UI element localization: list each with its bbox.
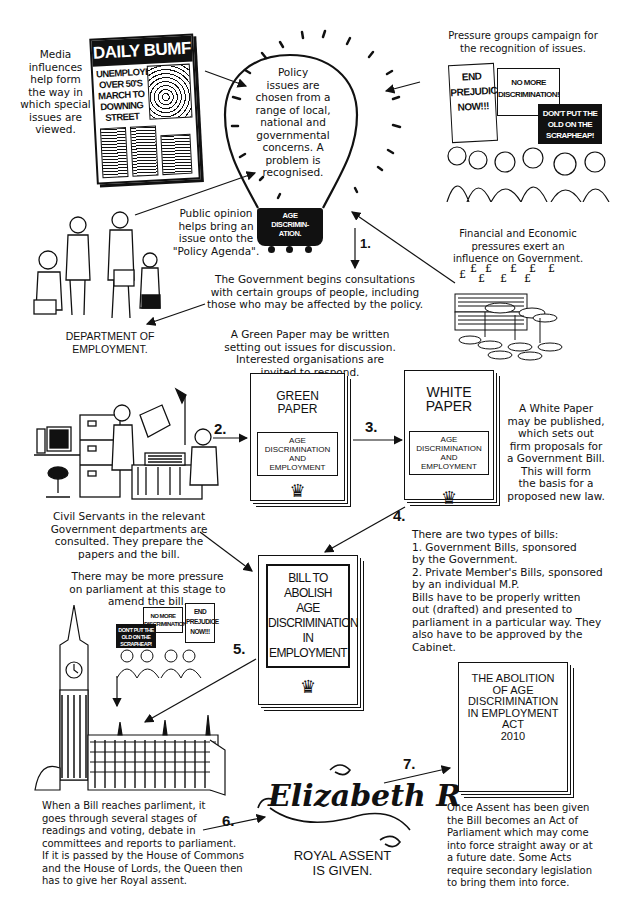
- protest-sign-end-prejudice: END PREJUDICE NOW!!!: [185, 603, 215, 643]
- newspaper-column: [160, 134, 192, 176]
- step-2-label: 2.: [214, 420, 227, 437]
- act-document: THE ABOLITION OF AGE DISCRIMINATION IN E…: [458, 662, 568, 792]
- pound-sign-icon: £: [470, 262, 477, 275]
- white-paper-subject: AGE DISCRIMINATION AND EMPLOYMENT: [409, 431, 489, 475]
- pound-sign-icon: £: [510, 262, 517, 275]
- parliament-caption: When a Bill reaches parliment, it goes t…: [42, 800, 252, 888]
- protest-sign-end-prejudice: END PREJUDICE NOW!!!: [448, 63, 498, 143]
- department-of-employment-label: DEPARTMENT OF EMPLOYMENT.: [55, 330, 165, 355]
- step-3-label: 3.: [365, 418, 378, 435]
- parliament-pressure-caption: There may be more pressure on parliament…: [60, 570, 235, 608]
- newspaper-daily-bumf: DAILY BUMF UNEMPLOYED OVER 50'S MARCH TO…: [89, 33, 200, 184]
- step-6-label: 6.: [222, 812, 235, 829]
- financial-caption: Financial and Economic pressures exert a…: [448, 228, 588, 266]
- pound-sign-icon: £: [478, 272, 485, 285]
- green-paper-caption: A Green Paper may be written setting out…: [205, 328, 415, 378]
- bill-document: BILL TO ABOLISH AGE DISCRIMINATION IN EM…: [258, 555, 358, 705]
- crown-icon: ♛: [251, 480, 344, 501]
- newspaper-column: [130, 125, 159, 176]
- act-caption: Once Assent has been given the Bill beco…: [447, 802, 627, 890]
- pound-sign-icon: £: [459, 268, 466, 281]
- bulb-text: Policy issues are chosen from a range of…: [238, 66, 348, 179]
- crowd-photo-icon: [147, 64, 193, 120]
- step-5-label: 5.: [233, 640, 246, 657]
- protesters-crowd-icon: [445, 142, 610, 202]
- consultation-caption: The Government begins consultations with…: [195, 273, 435, 311]
- step-7-label: 7.: [403, 755, 416, 772]
- step-4-label: 4.: [393, 507, 406, 524]
- protest-sign-scrapheap: DON'T PUT THE OLD ON THE SCRAPHEAP!: [116, 624, 156, 648]
- bill-title: BILL TO ABOLISH AGE DISCRIMINATION IN EM…: [266, 564, 350, 668]
- white-paper-title: WHITE PAPER: [405, 385, 493, 413]
- green-paper-subject: AGE DISCRIMINATION AND EMPLOYMENT: [257, 432, 338, 476]
- money-pile-icon: [455, 294, 562, 360]
- bill-types-caption: There are two types of bills: 1. Governm…: [412, 528, 630, 653]
- royal-assent-caption: ROYAL ASSENT IS GIVEN.: [290, 848, 395, 878]
- civil-servants-office-illustration: [20, 385, 220, 510]
- public-opinion-caption: Public opinion helps bring an issue onto…: [168, 207, 264, 257]
- white-paper-document: WHITE PAPER AGE DISCRIMINATION AND EMPLO…: [404, 370, 494, 500]
- media-caption: Media influences help form the way in wh…: [18, 48, 93, 136]
- green-paper-document: GREEN PAPER AGE DISCRIMINATION AND EMPLO…: [250, 373, 345, 501]
- royal-signature: Elizabeth R: [268, 778, 461, 813]
- pound-sign-icon: £: [548, 262, 555, 275]
- newspaper-column: [100, 127, 129, 178]
- bulb-base-age-discrimination: AGE DISCRIMIN- ATION.: [257, 208, 323, 246]
- act-title: THE ABOLITION OF AGE DISCRIMINATION IN E…: [459, 673, 567, 742]
- crown-icon: ♛: [405, 487, 493, 508]
- newspaper-headline: UNEMPLOYED OVER 50'S MARCH TO DOWNING ST…: [96, 66, 147, 123]
- bulb-contacts: [262, 246, 318, 252]
- pound-sign-icon: £: [485, 262, 492, 275]
- protest-sign-scrapheap: DON'T PUT THE OLD ON THE SCRAPHEAP!: [538, 104, 602, 144]
- pound-sign-icon: £: [529, 262, 536, 275]
- protesters-small-icon: [115, 648, 205, 678]
- green-paper-title: GREEN PAPER: [251, 390, 344, 416]
- civil-servants-caption: Civil Servants in the relevant Governmen…: [44, 510, 214, 560]
- pound-sign-icon: £: [500, 272, 507, 285]
- white-paper-caption: A White Paper may be published, which se…: [500, 402, 612, 502]
- crown-icon: ♛: [266, 676, 350, 697]
- step-1-label: 1.: [360, 236, 371, 251]
- pressure-groups-caption: Pressure groups campaign for the recogni…: [438, 30, 608, 55]
- public-group-illustration: [30, 200, 170, 320]
